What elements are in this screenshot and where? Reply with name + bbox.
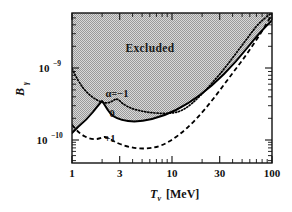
- excluded-region-label: Excluded: [125, 42, 174, 54]
- x-tick-label-30: 30: [214, 167, 226, 179]
- curve-label-alpha-plus-one: +1: [104, 133, 115, 144]
- x-tick-label-10: 10: [167, 167, 179, 179]
- figure-container: 1 3 10 30 100 10 −9 10 −10 B γ T ν [MeV]…: [0, 0, 292, 212]
- curve-label-alpha-zero: 0: [109, 108, 114, 119]
- x-axis-title: T ν [MeV]: [150, 187, 199, 203]
- y-axis-title-sub: γ: [21, 81, 30, 85]
- y-tick-label-1e-10: 10 −10: [37, 131, 64, 146]
- x-tick-label-1: 1: [69, 167, 75, 179]
- x-axis-title-sub: ν: [158, 194, 162, 203]
- y-tick-exponent-1e-9: −9: [53, 59, 61, 68]
- excluded-region: [72, 13, 272, 133]
- x-axis-title-unit: [MeV]: [166, 187, 199, 201]
- x-tick-label-100: 100: [264, 167, 281, 179]
- y-tick-mantissa-1e-10: 10: [37, 134, 49, 146]
- y-tick-mantissa-1e-9: 10: [39, 62, 51, 74]
- x-tick-label-3: 3: [117, 167, 123, 179]
- y-tick-exponent-1e-10: −10: [51, 131, 63, 140]
- curve-label-alpha-minus-one: α=−1: [105, 88, 128, 99]
- y-tick-label-1e-9: 10 −9: [39, 59, 62, 74]
- y-axis-title-main: B: [13, 88, 27, 97]
- plot-svg: 1 3 10 30 100 10 −9 10 −10 B γ T ν [MeV]…: [0, 0, 292, 212]
- y-axis-title: B γ: [13, 81, 30, 97]
- excluded-region-fill: [72, 13, 272, 133]
